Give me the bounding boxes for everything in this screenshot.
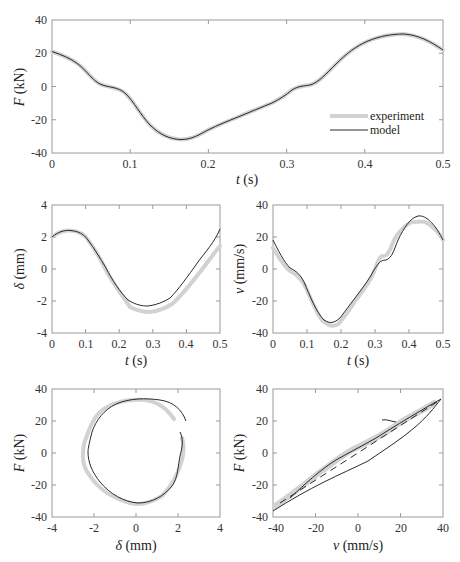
x-axis-label: t (s): [236, 172, 259, 188]
x-tick-labels: 0 0.1 0.2 0.3 0.4 0.5: [49, 157, 451, 171]
svg-text:40: 40: [35, 382, 47, 396]
svg-text:-40: -40: [252, 510, 268, 524]
x-axis-label: t (s): [347, 353, 370, 369]
svg-text:-4: -4: [37, 326, 47, 340]
svg-text:0.2: 0.2: [334, 337, 349, 351]
plot-frame: [52, 205, 220, 333]
tick-marks: [52, 205, 220, 333]
svg-text:0.2: 0.2: [201, 157, 216, 171]
panel-velocity-time: 40 20 0 -20 -40 0 0.1 0.2 0.3 0.4 0.5 t …: [232, 198, 451, 369]
svg-text:0: 0: [41, 262, 47, 276]
experiment-curve: [52, 230, 220, 312]
y-tick-labels: 40 20 0 -20 -40: [31, 13, 47, 160]
svg-text:2: 2: [175, 521, 181, 535]
model-mean-dashed: [280, 402, 437, 503]
svg-text:4: 4: [217, 521, 223, 535]
svg-text:-20: -20: [31, 113, 47, 127]
svg-text:0.1: 0.1: [79, 337, 94, 351]
x-tick-labels: -4 -2 0 2 4: [47, 521, 223, 535]
svg-text:0: 0: [49, 337, 55, 351]
svg-text:-40: -40: [31, 146, 47, 160]
svg-text:40: 40: [35, 13, 47, 27]
x-tick-labels: 0 0.1 0.2 0.3 0.4 0.5: [270, 337, 451, 351]
svg-text:-2: -2: [89, 521, 99, 535]
x-axis-label: t (s): [125, 353, 148, 369]
y-axis-label: F (kN): [12, 433, 28, 473]
svg-text:0.4: 0.4: [358, 157, 373, 171]
tick-marks: [273, 389, 443, 517]
svg-text:20: 20: [256, 230, 268, 244]
panel-force-velocity: 40 20 0 -20 -40 -40 -20 0 20 40 v (mm/s)…: [232, 382, 449, 554]
svg-text:0: 0: [355, 521, 361, 535]
svg-text:40: 40: [437, 521, 449, 535]
legend: experiment model: [330, 109, 425, 137]
svg-text:0.5: 0.5: [436, 157, 451, 171]
y-axis-label: δ (mm): [12, 248, 28, 289]
svg-text:20: 20: [395, 521, 407, 535]
y-tick-labels: 40 20 0 -20 -40: [31, 382, 47, 524]
svg-text:20: 20: [256, 414, 268, 428]
panel-displacement-time: 4 2 0 -2 -4 0 0.1 0.2 0.3 0.4 0.5 t (s) …: [12, 198, 228, 369]
svg-text:0.5: 0.5: [436, 337, 451, 351]
svg-text:0: 0: [262, 446, 268, 460]
y-tick-labels: 40 20 0 -20 -40: [252, 382, 268, 524]
y-axis-label: F (kN): [12, 67, 28, 107]
svg-text:0.4: 0.4: [402, 337, 417, 351]
svg-text:0.1: 0.1: [123, 157, 138, 171]
svg-text:0: 0: [49, 157, 55, 171]
svg-text:-40: -40: [268, 521, 284, 535]
model-curve: [273, 216, 443, 323]
experiment-curve: [83, 400, 184, 504]
svg-text:0: 0: [262, 262, 268, 276]
svg-text:0: 0: [41, 446, 47, 460]
model-curve: [52, 229, 220, 306]
x-axis-label: v (mm/s): [333, 538, 383, 554]
svg-text:-40: -40: [31, 510, 47, 524]
svg-text:20: 20: [35, 414, 47, 428]
x-tick-labels: -40 -20 0 20 40: [268, 521, 449, 535]
x-axis-label: δ (mm): [115, 538, 156, 554]
svg-text:0: 0: [41, 80, 47, 94]
svg-text:0.3: 0.3: [368, 337, 383, 351]
svg-text:40: 40: [256, 382, 268, 396]
x-tick-labels: 0 0.1 0.2 0.3 0.4 0.5: [49, 337, 228, 351]
model-stub: [382, 420, 396, 422]
svg-text:0.1: 0.1: [300, 337, 315, 351]
svg-text:-20: -20: [252, 478, 268, 492]
legend-experiment-label: experiment: [370, 109, 425, 123]
svg-text:0.3: 0.3: [280, 157, 295, 171]
tick-marks: [52, 389, 220, 517]
plot-frame: [273, 389, 443, 517]
svg-text:0.5: 0.5: [213, 337, 228, 351]
y-axis-label: v (mm/s): [232, 244, 248, 294]
panel-force-displacement: 40 20 0 -20 -40 -4 -2 0 2 4 δ (mm) F (kN…: [12, 382, 223, 554]
tick-marks: [273, 205, 443, 333]
svg-text:-40: -40: [252, 326, 268, 340]
svg-text:-20: -20: [31, 478, 47, 492]
plot-frame: [52, 389, 220, 517]
svg-text:-20: -20: [252, 294, 268, 308]
svg-text:0.4: 0.4: [179, 337, 194, 351]
svg-text:-20: -20: [308, 521, 324, 535]
legend-model-label: model: [370, 123, 401, 137]
svg-text:40: 40: [256, 198, 268, 212]
y-tick-labels: 40 20 0 -20 -40: [252, 198, 268, 340]
svg-text:20: 20: [35, 46, 47, 60]
panel-force-time: 40 20 0 -20 -40 0 0.1 0.2 0.3 0.4 0.5 t …: [12, 13, 451, 188]
svg-text:-2: -2: [37, 294, 47, 308]
figure: 40 20 0 -20 -40 0 0.1 0.2 0.3 0.4 0.5 t …: [0, 0, 460, 562]
svg-text:0.3: 0.3: [146, 337, 161, 351]
svg-text:2: 2: [41, 230, 47, 244]
svg-text:0: 0: [133, 521, 139, 535]
svg-text:4: 4: [41, 198, 47, 212]
svg-text:0.2: 0.2: [112, 337, 127, 351]
svg-text:-4: -4: [47, 521, 57, 535]
y-tick-labels: 4 2 0 -2 -4: [37, 198, 47, 340]
plot-frame: [273, 205, 443, 333]
y-axis-label: F (kN): [232, 433, 248, 473]
svg-text:0: 0: [270, 337, 276, 351]
